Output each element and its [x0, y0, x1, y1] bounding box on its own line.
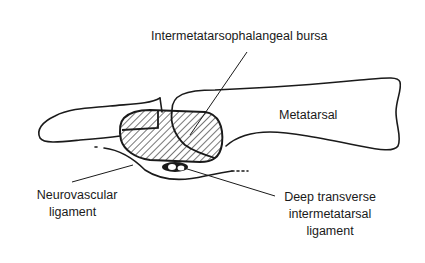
bursa-shape	[120, 110, 222, 162]
label-neurovascular-line2: ligament	[27, 204, 127, 221]
leader-deep-transverse	[184, 168, 275, 196]
label-neurovascular-line1: Neurovascular	[27, 187, 127, 204]
label-deep-transverse-line2: intermetatarsal	[272, 206, 388, 223]
label-neurovascular-ligament: Neurovascular ligament	[27, 187, 127, 221]
label-metatarsal: Metatarsal	[279, 107, 337, 124]
label-bursa: Intermetatarsophalangeal bursa	[151, 28, 328, 45]
neurovascular-bundle	[162, 162, 188, 172]
label-deep-transverse-ligament: Deep transverse intermetatarsal ligament	[272, 189, 388, 240]
label-deep-transverse-line1: Deep transverse	[272, 189, 388, 206]
label-deep-transverse-line3: ligament	[272, 223, 388, 240]
leader-neurovascular	[72, 165, 133, 182]
